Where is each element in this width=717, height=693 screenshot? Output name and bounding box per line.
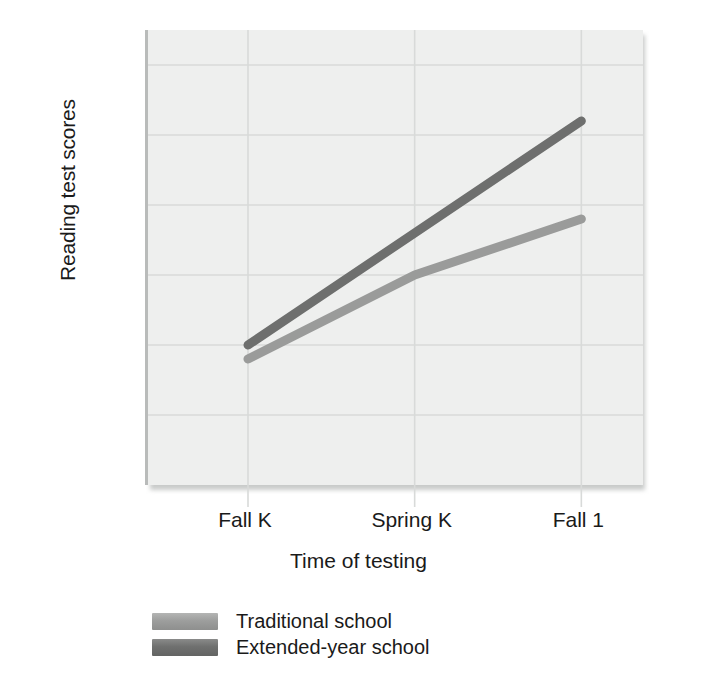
legend-item-traditional: Traditional school [152,608,429,634]
chart-legend: Traditional school Extended-year school [152,608,429,660]
x-axis-tick-label: Spring K [332,508,492,532]
x-axis-tick-label: Fall 1 [498,508,658,532]
gridlines-vertical [248,30,581,507]
legend-label-extended: Extended-year school [236,636,429,659]
legend-item-extended: Extended-year school [152,634,429,660]
legend-label-traditional: Traditional school [236,610,392,633]
plot-svg [148,30,643,485]
plot-area [145,30,643,485]
line-chart-figure: Reading test scores 30252015105 Fall KSp… [0,0,717,693]
legend-swatch-icon-traditional [152,613,218,630]
y-axis-title: Reading test scores [56,50,80,330]
x-axis-title: Time of testing [0,549,717,573]
legend-swatch-icon-extended [152,639,218,656]
x-axis-tick-label: Fall K [165,508,325,532]
gridlines-horizontal [148,65,643,415]
